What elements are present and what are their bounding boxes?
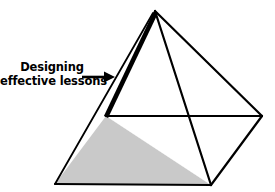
pyramid-diagram-svg <box>0 0 275 192</box>
callout-label: Designing effective lessons <box>0 61 104 88</box>
base-bottom-edge <box>55 184 211 185</box>
callout-label-line-2: effective lessons <box>0 75 104 89</box>
callout-label-line-1: Designing <box>0 61 104 75</box>
pyramid-figure: Designing effective lessons <box>0 0 275 192</box>
